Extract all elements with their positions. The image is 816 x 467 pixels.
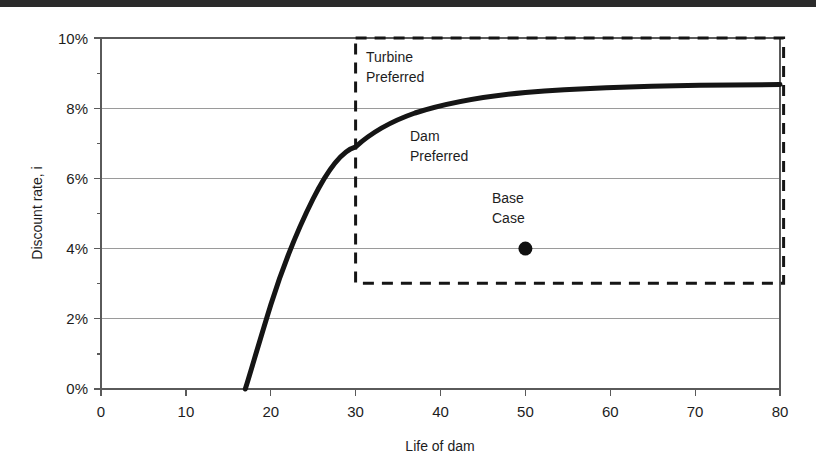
y-axis-title: Discount rate, i <box>29 166 45 259</box>
x-axis-title: Life of dam <box>405 438 474 454</box>
y-tick-label: 8% <box>66 100 88 117</box>
y-tick-labels: 10% 8% 6% 4% 2% 0% <box>58 30 88 397</box>
y-tick-label: 4% <box>66 240 88 257</box>
y-tick-label: 0% <box>66 380 88 397</box>
annotation-line: Preferred <box>366 69 424 85</box>
y-axis <box>94 38 101 389</box>
x-tick-label: 10 <box>178 403 195 420</box>
indifference-curve <box>245 85 780 390</box>
annotation-base-case: Base Case <box>492 190 525 226</box>
x-tick-label: 0 <box>97 403 105 420</box>
annotation-line: Base <box>492 190 524 206</box>
annotation-dam-preferred: Dam Preferred <box>410 128 468 164</box>
x-tick-label: 50 <box>517 403 534 420</box>
x-tick-label: 20 <box>262 403 279 420</box>
x-tick-label: 70 <box>687 403 704 420</box>
chart-svg: 10% 8% 6% 4% 2% 0% 0 10 20 30 40 50 60 7… <box>0 0 816 467</box>
gridlines-horizontal <box>101 108 780 319</box>
annotation-line: Preferred <box>410 148 468 164</box>
plot-frame <box>101 38 780 389</box>
annotation-line: Case <box>492 210 525 226</box>
x-tick-label: 30 <box>347 403 364 420</box>
annotation-line: Turbine <box>366 49 413 65</box>
chart-figure: 10% 8% 6% 4% 2% 0% 0 10 20 30 40 50 60 7… <box>0 0 816 467</box>
base-case-point <box>518 242 532 256</box>
annotation-turbine-preferred: Turbine Preferred <box>366 49 424 85</box>
y-tick-label: 2% <box>66 310 88 327</box>
x-tick-labels: 0 10 20 30 40 50 60 70 80 <box>97 403 789 420</box>
x-tick-label: 40 <box>432 403 449 420</box>
x-tick-label: 60 <box>602 403 619 420</box>
y-tick-label: 6% <box>66 170 88 187</box>
y-tick-label: 10% <box>58 30 88 47</box>
x-tick-label: 80 <box>772 403 789 420</box>
annotation-line: Dam <box>410 128 440 144</box>
x-axis <box>101 389 780 396</box>
